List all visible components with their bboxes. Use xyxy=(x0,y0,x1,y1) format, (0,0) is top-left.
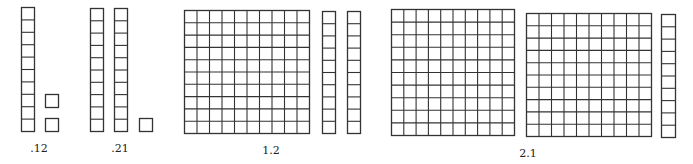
flat-block xyxy=(392,10,515,136)
unit-block xyxy=(46,119,59,132)
unit-block xyxy=(140,119,153,132)
flat-block xyxy=(185,11,310,134)
rod-block xyxy=(115,9,128,132)
base-ten-blocks-diagram xyxy=(0,0,693,164)
value-label: .12 xyxy=(30,142,48,155)
flat-block xyxy=(527,14,652,137)
unit-block xyxy=(46,95,59,108)
value-label: 1.2 xyxy=(262,144,280,157)
rod-block xyxy=(91,9,104,132)
rod-block xyxy=(662,15,676,138)
rod-block xyxy=(22,8,35,132)
value-label: .21 xyxy=(111,142,129,155)
rod-block xyxy=(323,12,336,134)
value-label: 2.1 xyxy=(519,147,537,160)
rod-block xyxy=(348,12,361,134)
